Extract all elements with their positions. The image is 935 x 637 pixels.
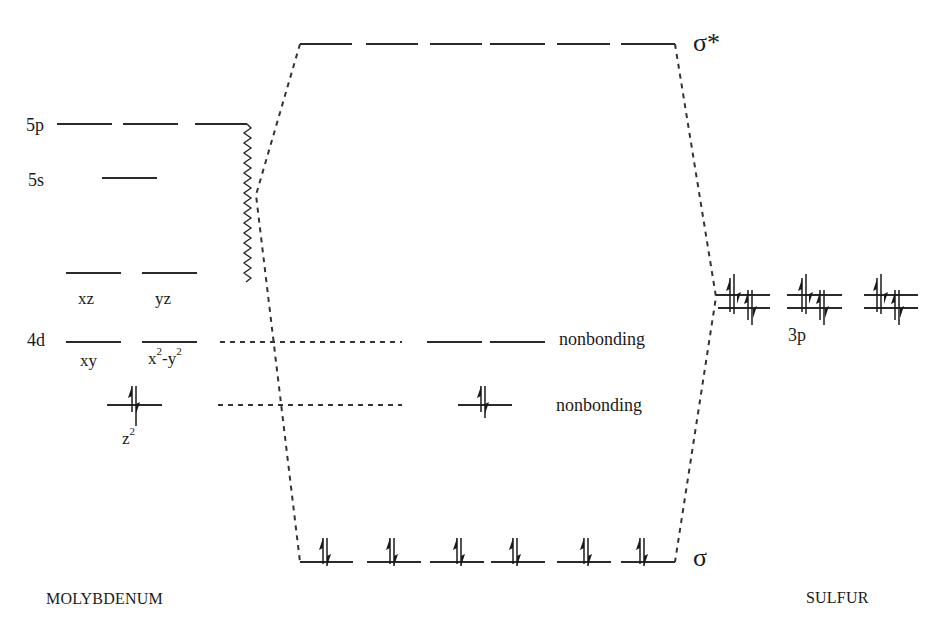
- sigma-label: σ: [693, 545, 707, 571]
- orbital-label-xz: xz: [78, 290, 94, 307]
- molybdenum-label: MOLYBDENUM: [46, 591, 163, 607]
- orbital-label-x2-y2: x2-y2: [148, 350, 182, 367]
- sigma-star-label: σ*: [693, 30, 720, 56]
- nonbonding-label-upper: nonbonding: [559, 330, 645, 348]
- mo-4d-z2-level: [107, 386, 162, 426]
- correlation-lines: [218, 44, 716, 562]
- nonbonding-label-lower: nonbonding: [556, 396, 642, 414]
- mo-diagram: [0, 0, 935, 637]
- orbital-label-z2: z2: [122, 430, 135, 447]
- nonbonding-lower-level: [458, 386, 512, 418]
- orbital-label-yz: yz: [155, 290, 171, 307]
- sulfur-3p-group-2: [787, 274, 842, 325]
- mo-5s-label: 5s: [28, 171, 44, 189]
- energy-break-zigzag: [244, 124, 251, 282]
- sulfur-3p-levels: [716, 274, 918, 325]
- sulfur-3p-group-3: [864, 274, 918, 325]
- mo-4d-label: 4d: [27, 331, 45, 349]
- orbital-label-xy: xy: [80, 352, 97, 369]
- sulfur-3p-label: 3p: [788, 326, 806, 344]
- sulfur-label: SULFUR: [806, 590, 869, 606]
- sulfur-3p-group-1: [716, 274, 770, 325]
- mo-5p-label: 5p: [26, 116, 44, 134]
